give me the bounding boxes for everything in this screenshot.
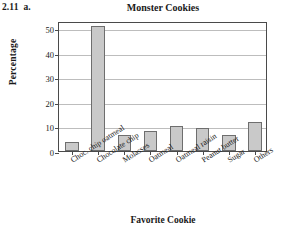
exercise-number: 2.11 (2, 2, 19, 12)
y-axis-tick-label: 20 (25, 99, 59, 109)
y-axis-tick-label: 0 (25, 148, 59, 158)
y-axis-tick-mark (55, 30, 59, 31)
y-axis-title: Percentage (8, 22, 18, 102)
y-axis-tick-mark (55, 79, 59, 80)
bar (91, 26, 105, 151)
plot-area: 01020304050 (58, 22, 267, 152)
exercise-label: 2.11a. (2, 2, 31, 12)
x-axis-title: Favorite Cookie (58, 215, 268, 225)
y-axis-tick-mark (55, 128, 59, 129)
gridline (59, 55, 266, 56)
chart-title: Monster Cookies (58, 2, 268, 13)
gridline (59, 128, 266, 129)
plot-inner (59, 23, 266, 151)
y-axis-tick-label: 30 (25, 74, 59, 84)
y-axis-tick-label: 10 (25, 123, 59, 133)
y-axis-tick-mark (55, 104, 59, 105)
exercise-part: a. (24, 2, 31, 12)
gridline (59, 30, 266, 31)
y-axis-tick-mark (55, 153, 59, 154)
bar (248, 122, 262, 151)
gridline (59, 104, 266, 105)
y-axis-tick-label: 40 (25, 50, 59, 60)
y-axis-tick-mark (55, 55, 59, 56)
gridline (59, 79, 266, 80)
y-axis-tick-label: 50 (25, 25, 59, 35)
bar (65, 142, 79, 151)
